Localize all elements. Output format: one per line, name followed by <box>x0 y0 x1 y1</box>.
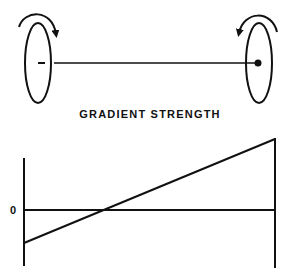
left-coil <box>19 14 56 103</box>
rotation-arrow-counterclockwise-icon <box>239 16 277 33</box>
gradient-diagram: GRADIENT STRENGTH 0 <box>0 0 288 280</box>
dot-marker <box>255 60 262 67</box>
rotation-arrow-clockwise-icon <box>19 14 56 34</box>
gradient-plot: 0 <box>10 138 275 268</box>
right-coil <box>239 16 277 103</box>
diagram-title: GRADIENT STRENGTH <box>79 108 220 120</box>
gradient-line <box>24 139 275 243</box>
zero-label: 0 <box>10 204 16 216</box>
